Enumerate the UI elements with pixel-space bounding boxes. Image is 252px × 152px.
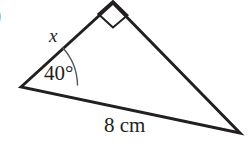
known-side-label: 8 cm xyxy=(104,115,145,136)
angle-measure-label: 40° xyxy=(44,63,73,84)
triangle-figure: ) x 40° 8 cm xyxy=(0,0,252,152)
unknown-side-label: x xyxy=(49,26,57,45)
list-item-marker: ) xyxy=(0,2,1,27)
